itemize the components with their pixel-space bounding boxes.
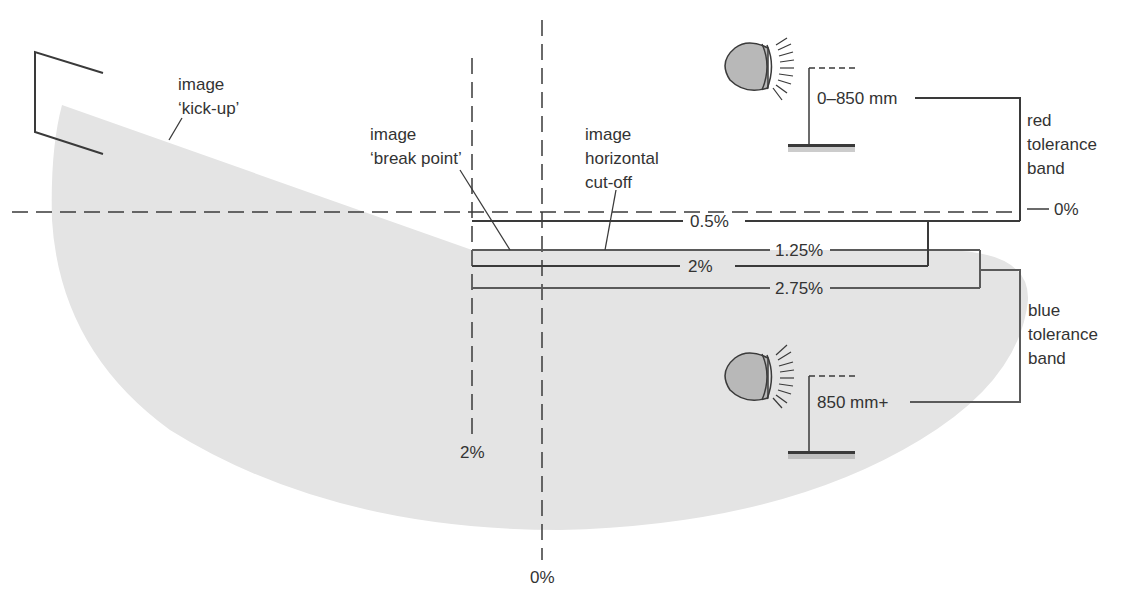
height-marker-low <box>788 68 855 152</box>
cutoff-label-line1: image <box>585 125 631 144</box>
beam-image-shape <box>52 105 1028 530</box>
red-band-label-line2: tolerance <box>1027 135 1097 154</box>
blue-band-label-line1: blue <box>1028 301 1060 320</box>
red-band-label-line3: band <box>1027 159 1065 178</box>
cutoff-label-line3: cut-off <box>585 173 632 192</box>
break-point-leader <box>460 170 510 250</box>
kick-up-label-line1: image <box>178 75 224 94</box>
cutoff-label-line2: horizontal <box>585 149 659 168</box>
height-high-label: 850 mm+ <box>817 393 888 412</box>
vertical-zero-label: 0% <box>530 568 555 587</box>
headlamp-icon-low <box>725 38 794 100</box>
kick-up-leader <box>169 118 182 140</box>
percent-label-2: 2% <box>688 257 713 276</box>
percent-label-2-75: 2.75% <box>775 279 823 298</box>
break-point-label-line1: image <box>370 125 416 144</box>
headlamp-aim-diagram: image ‘kick-up’ image ‘break point’ imag… <box>0 0 1134 602</box>
height-low-label: 0–850 mm <box>817 89 897 108</box>
blue-band-label-line3: band <box>1028 349 1066 368</box>
break-point-label-line2: ‘break point’ <box>370 149 462 168</box>
kick-up-label-line2: ‘kick-up’ <box>178 99 239 118</box>
red-band-bracket <box>915 98 1020 221</box>
horizontal-zero-label: 0% <box>1054 200 1079 219</box>
percent-label-0-5: 0.5% <box>690 212 729 231</box>
red-band-label-line1: red <box>1027 111 1052 130</box>
blue-band-label-line2: tolerance <box>1028 325 1098 344</box>
percent-label-1-25: 1.25% <box>775 241 823 260</box>
vertical-two-label: 2% <box>460 443 485 462</box>
